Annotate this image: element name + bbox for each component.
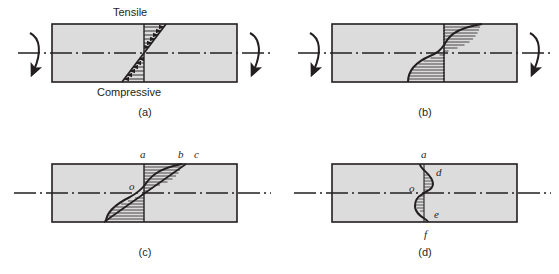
figure-canvas: Tensile Compressive (a) [0,0,559,274]
point-label-c-a: a [140,148,146,160]
point-label-d-f: f [424,228,427,240]
compressive-label-a: Compressive [97,86,161,98]
moment-arrow-right-a [250,33,259,70]
point-label-c-b: b [178,148,184,160]
moment-arrow-left-b [310,33,319,70]
moment-arrow-left-a [30,33,39,70]
point-label-c-c: c [194,148,199,160]
point-label-d-a: a [421,148,427,160]
panel-d [280,140,559,255]
caption-c: (c) [125,246,165,258]
caption-d: (d) [405,246,445,258]
tensile-label-a: Tensile [113,6,147,18]
moment-arrow-right-b [530,33,539,70]
point-label-d-d: d [436,166,442,178]
point-label-d-e: e [434,208,439,220]
caption-a: (a) [125,106,165,118]
caption-b: (b) [405,106,445,118]
point-label-c-o: o [129,180,135,192]
point-label-d-o: o [409,182,415,194]
